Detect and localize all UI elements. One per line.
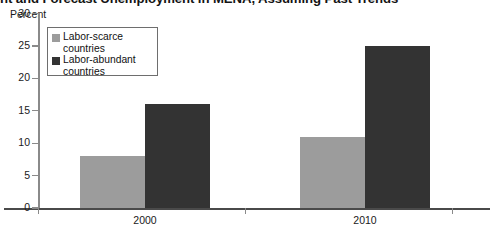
chart-legend: Labor-scarce countries Labor-abundant co… xyxy=(47,27,158,76)
legend-label-labor-abundant: Labor-abundant countries xyxy=(63,54,136,77)
x-axis-tick xyxy=(452,208,453,214)
legend-item-labor-scarce: Labor-scarce countries xyxy=(52,31,157,54)
x-axis-tick xyxy=(245,208,246,214)
legend-swatch-icon-labor-scarce xyxy=(52,34,60,42)
legend-label-labor-scarce: Labor-scarce countries xyxy=(63,31,123,54)
bar xyxy=(80,156,145,208)
x-axis-tick xyxy=(38,208,39,214)
bar xyxy=(365,46,430,208)
x-axis-category-label: 2010 xyxy=(335,214,395,226)
bar xyxy=(145,104,210,208)
legend-swatch-icon-labor-abundant xyxy=(52,57,60,65)
x-axis-category-label: 2000 xyxy=(115,214,175,226)
bar xyxy=(300,137,365,208)
legend-item-labor-abundant: Labor-abundant countries xyxy=(52,54,157,77)
x-axis-line xyxy=(4,208,490,210)
